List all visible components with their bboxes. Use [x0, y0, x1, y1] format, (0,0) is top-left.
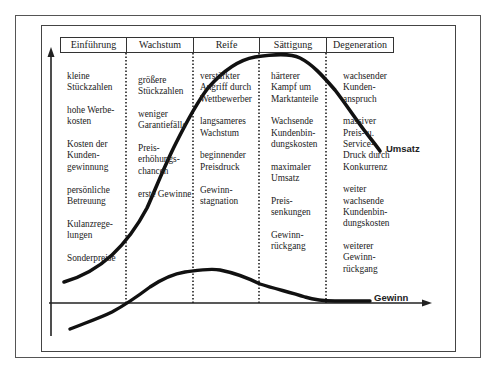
phase-column-wachstum: größere Stückzahlen weniger Garantiefäll… [138, 75, 191, 211]
phase-item: beginnender Preisdruck [200, 150, 252, 173]
phase-item: weiterer Gewinn- rückgang [343, 241, 390, 275]
phase-item: maximaler Umsatz [271, 162, 319, 185]
phase-item: wachsender Kunden- anspruch [343, 71, 390, 105]
phase-item: persönliche Betreuung [67, 185, 116, 208]
phase-column-einfuehrung: kleine Stückzahlen hohe Werbe- kosten Ko… [67, 71, 116, 276]
umsatz-label: Umsatz [386, 143, 420, 154]
phase-item: weiter wachsende Kundenbin- dungskosten [343, 184, 390, 229]
phase-item: Wachsende Kundenbin- dungskosten [271, 116, 319, 150]
phase-item: härterer Kampf um Marktanteile [271, 71, 319, 105]
phase-item: Preis- erhöhungs- chancen [138, 143, 191, 177]
phase-item: verstärkter Angriff durch Wettbewerber [200, 71, 252, 105]
phase-item: Preis- senkungen [271, 196, 319, 219]
phase-item: Gewinn- stagnation [200, 185, 252, 208]
gewinn-label: Gewinn [374, 292, 408, 303]
phase-item: hohe Werbe- kosten [67, 105, 116, 128]
phase-item: massiver Preis- u. Service- Druck durch … [343, 116, 390, 172]
phase-item: Gewinn- rückgang [271, 230, 319, 253]
phase-column-reife: verstärkter Angriff durch Wettbewerber l… [200, 71, 252, 219]
phase-item: Kulanzrege- lungen [67, 219, 116, 242]
phase-column-degeneration: wachsender Kunden- anspruch massiver Pre… [343, 71, 390, 286]
phase-item: Sonderpreise [67, 253, 116, 264]
phase-item: kleine Stückzahlen [67, 71, 116, 94]
phase-item: langsameres Wachstum [200, 116, 252, 139]
phase-column-saettigung: härterer Kampf um Marktanteile Wachsende… [271, 71, 319, 264]
phase-item: erste Gewinne [138, 189, 191, 200]
phase-item: weniger Garantiefälle [138, 109, 191, 132]
phase-item: Kosten der Kunden- gewinnung [67, 139, 116, 173]
phase-item: größere Stückzahlen [138, 75, 191, 98]
gewinn-curve [70, 269, 370, 329]
